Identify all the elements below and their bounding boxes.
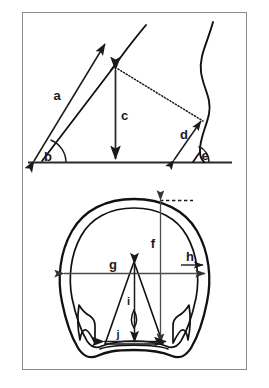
label-d: d bbox=[180, 127, 188, 142]
label-j: j bbox=[115, 328, 119, 340]
label-g: g bbox=[109, 257, 117, 272]
label-c: c bbox=[121, 108, 128, 123]
figure-container: a b c d e bbox=[0, 0, 269, 388]
label-b: b bbox=[44, 149, 52, 164]
label-i: i bbox=[127, 295, 130, 307]
label-e: e bbox=[201, 148, 208, 163]
label-f: f bbox=[151, 236, 156, 251]
hoof-measurement-diagram: a b c d e bbox=[0, 0, 269, 388]
label-a: a bbox=[53, 88, 61, 103]
label-h: h bbox=[186, 249, 194, 264]
